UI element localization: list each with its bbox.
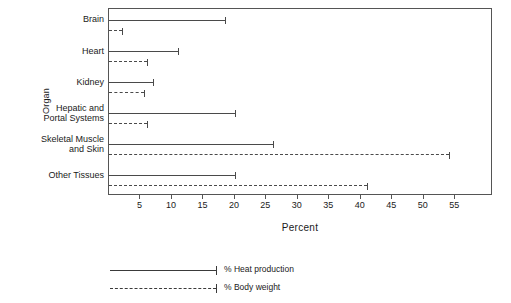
x-tick-55 [454,195,455,199]
y-axis-label-0: Brain [0,14,104,25]
y-axis-label-5: Other Tissues [0,170,104,181]
y-axis-label-4: Skeletal Muscleand Skin [0,134,104,155]
x-tick-label-35: 35 [316,200,340,210]
bar-end-cap [144,90,145,97]
x-tick-35 [328,195,329,199]
y-axis-label-1: Heart [0,46,104,57]
bar-end-cap [178,48,179,55]
x-tick-label-20: 20 [222,200,246,210]
x-tick-label-30: 30 [285,200,309,210]
legend-swatch-dashed [110,288,216,289]
bar-end-cap [225,17,226,24]
x-axis-title: Percent [108,222,492,233]
x-tick-label-15: 15 [190,200,214,210]
x-tick-15 [202,195,203,199]
x-tick-50 [423,195,424,199]
x-tick-label-50: 50 [411,200,435,210]
bar-heat-production-0 [109,20,225,21]
bar-end-cap [122,28,123,35]
y-axis-label-line: Other Tissues [0,170,104,181]
y-axis-label-2: Kidney [0,77,104,88]
bar-end-cap [147,59,148,66]
x-tick-label-25: 25 [253,200,277,210]
bar-heat-production-3 [109,113,235,114]
bar-end-cap [449,152,450,159]
bar-body-weight-0 [109,30,122,31]
bar-end-cap [367,183,368,190]
y-axis-label-line: and Skin [0,144,104,155]
x-tick-25 [265,195,266,199]
legend-swatch-cap [216,284,217,293]
bar-heat-production-4 [109,144,273,145]
bar-body-weight-3 [109,123,147,124]
legend-swatch-cap [216,266,217,275]
bar-heat-production-5 [109,175,235,176]
bar-heat-production-2 [109,82,153,83]
y-axis-label-line: Hepatic and [0,103,104,114]
plot-area [108,8,492,195]
x-tick-label-10: 10 [159,200,183,210]
chart-figure: Organ BrainHeartKidneyHepatic andPortal … [0,0,511,303]
bar-end-cap [235,172,236,179]
bar-body-weight-1 [109,61,147,62]
x-tick-10 [171,195,172,199]
bar-end-cap [235,110,236,117]
bar-end-cap [147,121,148,128]
y-axis-tick-labels: BrainHeartKidneyHepatic andPortal System… [0,0,104,195]
legend-label: % Body weight [224,282,280,292]
y-axis-label-line: Kidney [0,77,104,88]
y-axis-label-line: Portal Systems [0,113,104,124]
y-axis-label-3: Hepatic andPortal Systems [0,103,104,124]
y-axis-label-line: Brain [0,14,104,25]
bar-end-cap [153,79,154,86]
y-axis-label-line: Heart [0,46,104,57]
x-tick-label-5: 5 [127,200,151,210]
x-tick-30 [297,195,298,199]
x-tick-label-45: 45 [379,200,403,210]
bar-end-cap [273,141,274,148]
x-tick-label-40: 40 [348,200,372,210]
x-tick-45 [391,195,392,199]
y-axis-label-line: Skeletal Muscle [0,134,104,145]
bar-body-weight-5 [109,185,367,186]
bar-heat-production-1 [109,51,178,52]
legend-swatch-solid [110,270,216,271]
x-tick-20 [234,195,235,199]
x-tick-5 [139,195,140,199]
bar-body-weight-2 [109,92,144,93]
x-tick-label-55: 55 [442,200,466,210]
bar-body-weight-4 [109,154,449,155]
legend-label: % Heat production [224,264,294,274]
x-tick-40 [360,195,361,199]
